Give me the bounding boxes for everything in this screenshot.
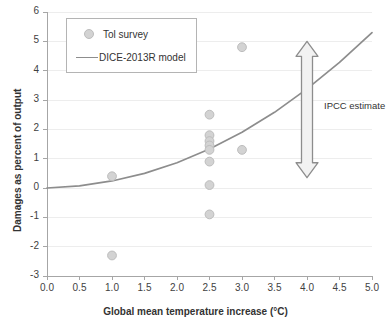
legend-label-tol-survey: Tol survey — [103, 29, 148, 40]
x-tick-label: 1.5 — [128, 282, 162, 293]
y-tick-label: 6 — [13, 5, 39, 16]
legend-label-dice-model: DICE-2013R model — [99, 52, 186, 63]
y-tick-label: 4 — [13, 64, 39, 75]
x-axis-title: Global mean temperature increase (°C) — [0, 306, 391, 317]
x-tick-label: 3.5 — [258, 282, 292, 293]
ipcc-estimate-arrow — [296, 41, 318, 177]
y-tick-label: -3 — [13, 269, 39, 280]
x-tick-label: 5.0 — [355, 282, 389, 293]
y-axis-title: Damages as percent of output — [12, 89, 23, 232]
x-tick-label: 3.0 — [225, 282, 259, 293]
circle-marker-icon — [84, 29, 94, 39]
x-tick-label: 2.5 — [193, 282, 227, 293]
y-tick-label: -2 — [13, 240, 39, 251]
x-tick-label: 4.5 — [323, 282, 357, 293]
line-swatch-icon — [76, 57, 98, 58]
legend-item-dice-model: DICE-2013R model — [75, 49, 186, 65]
tol-survey-points — [108, 43, 247, 260]
x-tick-label: 0.0 — [30, 282, 64, 293]
x-tick-label: 0.5 — [63, 282, 97, 293]
x-tick-label: 4.0 — [290, 282, 324, 293]
y-tick-label: 5 — [13, 34, 39, 45]
legend: Tol survey DICE-2013R model — [66, 18, 197, 73]
x-tick-label: 1.0 — [95, 282, 129, 293]
chart-container: 6543210-1-2-3 0.00.51.01.52.02.53.03.54.… — [0, 0, 391, 319]
legend-item-tol-survey: Tol survey — [75, 26, 148, 42]
x-tick-label: 2.0 — [160, 282, 194, 293]
ipcc-estimate-label: IPCC estimate — [324, 100, 385, 111]
